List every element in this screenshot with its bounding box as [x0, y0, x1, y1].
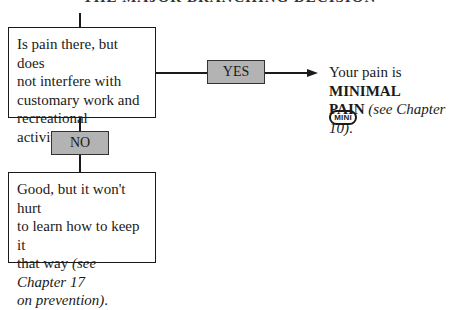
arrow-right-icon [307, 69, 318, 77]
question-line-1: Is pain there, but does [17, 35, 147, 72]
no-result-line-3-plain: that way [17, 255, 72, 271]
diagram-title: THE MAJOR BRANCHING DECISION [0, 0, 459, 6]
yes-result-prefix: Your pain is [329, 64, 402, 80]
yes-label: YES [207, 60, 265, 84]
connector-top-in [79, 13, 81, 28]
question-line-3: customary work and [17, 91, 147, 110]
no-result-line-1: Good, but it won't hurt [17, 180, 147, 217]
yes-result-bold-1: MINIMAL [329, 83, 401, 99]
connector-to-yes [155, 72, 207, 74]
no-result-box: Good, but it won't hurt to learn how to … [8, 172, 156, 263]
no-result-line-2: to learn how to keep it [17, 217, 147, 254]
no-result-line-3: that way (see Chapter 17 [17, 254, 147, 291]
no-result-line-4-suffix: . [104, 292, 108, 308]
question-box: Is pain there, but does not interfere wi… [8, 27, 156, 118]
mini-badge-icon: MINI [329, 110, 357, 125]
connector-yes-to-result [265, 72, 308, 74]
connector-no-to-result [79, 155, 81, 172]
no-result-line-4-italic: on prevention) [17, 292, 104, 308]
no-label: NO [51, 131, 109, 155]
question-line-2: not interfere with [17, 72, 147, 91]
no-result-line-4: on prevention). [17, 291, 147, 310]
yes-result-text: Your pain is MINIMAL PAIN (see Chapter 1… [329, 63, 459, 137]
